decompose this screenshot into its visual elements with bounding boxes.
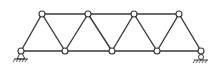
diagonal-member: [179, 14, 201, 51]
diagonal-member: [134, 14, 157, 51]
truss-joint-icon: [198, 48, 204, 54]
diagonal-member: [65, 14, 88, 51]
truss-joint-icon: [18, 48, 24, 54]
diagonal-member: [21, 14, 42, 51]
truss-diagram: [0, 0, 222, 72]
diagonal-member: [42, 14, 65, 51]
truss-nodes: [18, 11, 204, 54]
right-roller-support-icon: [193, 54, 208, 63]
truss-joint-icon: [39, 11, 45, 17]
diagonal-member: [157, 14, 179, 51]
truss-joint-icon: [154, 48, 160, 54]
truss-members: [21, 14, 201, 51]
truss-joint-icon: [85, 11, 91, 17]
truss-joint-icon: [176, 11, 182, 17]
truss-joint-icon: [131, 11, 137, 17]
truss-joint-icon: [62, 48, 68, 54]
truss-joint-icon: [109, 48, 115, 54]
diagonal-member: [88, 14, 112, 51]
diagonal-member: [112, 14, 134, 51]
